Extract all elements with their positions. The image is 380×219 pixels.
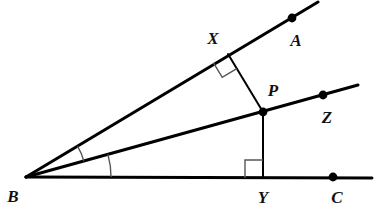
angle-ABZ-arc [78, 146, 84, 161]
vertex-label-z: Z [322, 109, 332, 126]
point-marker-p [259, 108, 268, 117]
vertex-label-b: B [7, 188, 18, 205]
vertex-label-x: X [207, 30, 218, 47]
point-marker-c [329, 173, 338, 182]
ray-BZ [26, 85, 358, 177]
right-angle-at-X [213, 63, 236, 78]
vertex-label-c: C [331, 189, 342, 206]
point-marker-z [319, 91, 328, 100]
right-angle-at-Y [245, 160, 263, 178]
point-marker-a [288, 14, 297, 23]
ray-BC [26, 177, 372, 178]
geometry-diagram: B A Z C X P Y [0, 0, 380, 219]
segments-group [26, 2, 372, 178]
vertex-label-a: A [290, 32, 301, 49]
vertex-label-p: P [268, 82, 278, 99]
right-angle-markers-group [213, 63, 263, 178]
segment-XP [228, 54, 263, 112]
angle-ZBC-arc [108, 154, 111, 177]
vertex-label-y: Y [258, 189, 268, 206]
